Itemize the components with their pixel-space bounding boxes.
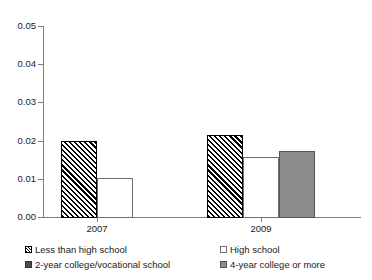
gray-swatch-icon	[220, 261, 227, 268]
y-axis-line	[43, 26, 44, 218]
legend-item-two-year-college: 2-year college/vocational school	[25, 259, 170, 270]
x-tick-label-2009: 2009	[231, 224, 291, 234]
legend-label: High school	[230, 244, 280, 255]
legend-label: 4-year college or more	[230, 259, 325, 270]
y-tick-mark	[38, 217, 43, 218]
y-tick-label: 0.02	[2, 136, 36, 146]
bar-2007-less-than-high-school	[61, 141, 97, 218]
x-tick-label-2007: 2007	[67, 224, 127, 234]
y-tick-label: 0.01	[2, 174, 36, 184]
hatched-swatch-icon	[25, 246, 32, 253]
legend-item-high-school: High school	[220, 244, 280, 255]
bar-chart: 0.05 0.04 0.03 0.02 0.01 0.00 2007 2009	[0, 0, 372, 280]
open-swatch-icon	[220, 246, 227, 253]
y-tick-mark	[38, 179, 43, 180]
x-tick-mark	[261, 217, 262, 222]
bar-2009-less-than-high-school	[207, 135, 243, 218]
y-tick-label: 0.03	[2, 97, 36, 107]
bar-2009-four-year-college-or-more	[279, 151, 315, 218]
y-tick-mark	[38, 64, 43, 65]
y-tick-mark	[38, 102, 43, 103]
bar-2009-high-school	[243, 157, 279, 218]
legend-item-less-than-high-school: Less than high school	[25, 244, 127, 255]
y-tick-label: 0.04	[2, 59, 36, 69]
dark-swatch-icon	[25, 261, 32, 268]
y-tick-mark	[38, 26, 43, 27]
legend-item-four-year-college: 4-year college or more	[220, 259, 325, 270]
x-tick-mark	[97, 217, 98, 222]
bar-2007-high-school	[97, 178, 133, 218]
y-tick-mark	[38, 141, 43, 142]
y-tick-label: 0.05	[2, 21, 36, 31]
y-tick-label: 0.00	[2, 212, 36, 222]
chart-legend: Less than high school High school 2-year…	[25, 244, 365, 276]
plot-area: 0.05 0.04 0.03 0.02 0.01 0.00 2007 2009	[0, 0, 372, 240]
legend-label: Less than high school	[35, 244, 127, 255]
legend-label: 2-year college/vocational school	[35, 259, 170, 270]
